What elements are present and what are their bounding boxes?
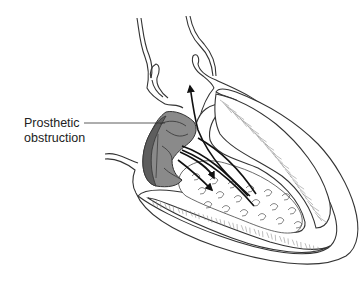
label-line-1: Prosthetic: [24, 116, 85, 131]
label-line-2: obstruction: [24, 131, 85, 146]
aorta-vessel: [137, 18, 183, 108]
atrium-vessel: [105, 154, 138, 193]
prosthetic-obstruction-label: Prosthetic obstruction: [24, 116, 85, 146]
